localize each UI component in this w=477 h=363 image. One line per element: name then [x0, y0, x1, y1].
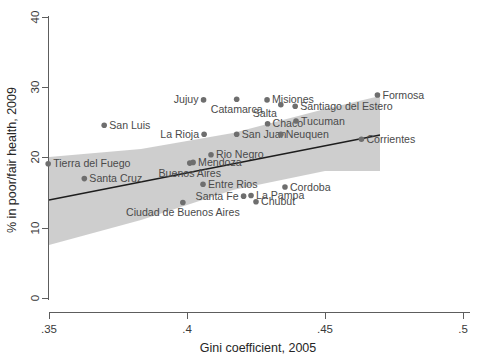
data-point: [248, 193, 254, 199]
data-point-label: Ciudad de Buenos Aires: [126, 206, 240, 218]
data-point-label: Entre Rios: [208, 178, 257, 190]
y-tick-label-0: 0: [29, 295, 41, 301]
y-tick-label-20: 20: [29, 151, 41, 164]
y-tick-label-40: 40: [29, 11, 41, 24]
data-point: [82, 176, 88, 182]
x-axis-title: Gini coefficient, 2005: [200, 341, 317, 355]
data-point-label: Santiago del Estero: [300, 100, 393, 112]
data-point-label: Formosa: [382, 89, 424, 101]
data-point-label: Tucuman: [301, 115, 345, 127]
data-point: [278, 132, 284, 138]
data-point-label: Jujuy: [174, 93, 199, 105]
data-point: [253, 199, 259, 205]
data-point: [265, 121, 271, 127]
data-point: [264, 97, 270, 103]
y-tick-label-10: 10: [29, 222, 41, 235]
data-point-label: Corrientes: [366, 133, 415, 145]
data-point-label: La Rioja: [160, 128, 199, 140]
data-point: [293, 118, 299, 124]
data-point-label: Tierra del Fuego: [53, 157, 130, 169]
data-point: [241, 193, 247, 199]
data-point: [292, 103, 298, 109]
data-point: [200, 181, 206, 187]
data-point: [201, 97, 207, 103]
y-axis-title: % in poor/fair health, 2009: [5, 87, 19, 233]
data-point: [278, 102, 284, 108]
data-point: [180, 200, 186, 206]
x-tick-label-04: .4: [182, 323, 192, 335]
data-point-label: Salta: [253, 107, 277, 119]
data-point-label: Chubut: [261, 195, 295, 207]
scatter-plot-figure: 40 30 20 10 0 % in poor/fair health, 200…: [0, 0, 477, 363]
x-tick-label-035: .35: [41, 323, 57, 335]
y-tick-label-30: 30: [29, 81, 41, 94]
data-point: [282, 184, 288, 190]
plot-canvas: 40 30 20 10 0 % in poor/fair health, 200…: [0, 0, 477, 363]
data-point-label: Santa Cruz: [89, 172, 142, 184]
data-point-label: Neuquen: [286, 128, 329, 140]
x-tick-label-045: .45: [317, 323, 333, 335]
data-point-label: Cordoba: [290, 181, 331, 193]
data-point: [375, 92, 381, 98]
data-point: [101, 122, 107, 128]
data-point-label: Rio Negro: [216, 148, 264, 160]
data-point: [201, 132, 207, 138]
data-point: [234, 132, 240, 138]
data-point-label: San Luis: [109, 119, 150, 131]
data-point: [359, 136, 365, 142]
x-tick-label-05: .5: [458, 323, 468, 335]
data-point: [45, 161, 51, 167]
data-point: [190, 160, 196, 166]
data-point: [234, 96, 240, 102]
data-point-label: Santa Fe: [196, 190, 239, 202]
data-point: [208, 152, 214, 158]
